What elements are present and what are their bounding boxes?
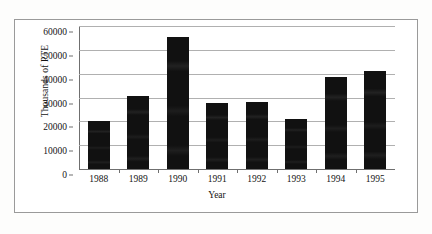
y-axis-tick-mark <box>69 151 73 152</box>
y-axis-tick-labels: 0100002000030000400005000060000 <box>25 26 73 169</box>
x-axis-tick-labels: 19881989199019911992199319941995 <box>79 174 395 188</box>
y-axis-tick-mark <box>69 32 73 33</box>
y-axis-tick-label: 40000 <box>43 75 67 85</box>
plot-area <box>79 26 395 169</box>
y-axis-tick-label: 20000 <box>43 122 67 132</box>
x-axis-tick-mark <box>277 169 278 173</box>
x-axis-tick-label: 1989 <box>129 174 148 184</box>
x-axis-tick-label: 1991 <box>208 174 227 184</box>
y-axis-tick-label: 30000 <box>43 99 67 109</box>
figure-root: Thousands of PTE 01000020000300004000050… <box>0 0 432 234</box>
x-axis-tick-mark <box>158 169 159 173</box>
bar <box>88 121 110 169</box>
x-axis-tick-mark <box>237 169 238 173</box>
bar <box>285 119 307 169</box>
y-axis-tick-label: 0 <box>62 170 67 180</box>
bar <box>364 71 386 169</box>
y-axis-tick-mark <box>69 55 73 56</box>
bar <box>167 37 189 169</box>
y-axis-tick-label: 60000 <box>43 27 67 37</box>
y-axis-tick-mark <box>69 127 73 128</box>
y-axis-tick-mark <box>69 175 73 176</box>
bar <box>127 96 149 169</box>
x-axis-title: Year <box>15 190 419 200</box>
x-axis-tick-mark <box>316 169 317 173</box>
x-axis-tick-mark <box>119 169 120 173</box>
bar <box>206 103 228 169</box>
bars <box>79 26 395 169</box>
x-axis-tick-label: 1993 <box>287 174 306 184</box>
x-axis-tick-label: 1990 <box>168 174 187 184</box>
x-axis-tick-mark <box>356 169 357 173</box>
chart-frame: Thousands of PTE 01000020000300004000050… <box>14 19 418 213</box>
y-axis-tick-label: 50000 <box>43 51 67 61</box>
x-axis-tick-label: 1992 <box>247 174 266 184</box>
y-axis-tick-mark <box>69 103 73 104</box>
x-axis-tick-label: 1988 <box>89 174 108 184</box>
y-axis-tick-mark <box>69 79 73 80</box>
y-axis-tick-label: 10000 <box>43 146 67 156</box>
x-axis-tick-mark <box>198 169 199 173</box>
bar <box>325 77 347 169</box>
x-axis-tick-label: 1995 <box>366 174 385 184</box>
bar <box>246 102 268 169</box>
x-axis-tick-label: 1994 <box>326 174 345 184</box>
